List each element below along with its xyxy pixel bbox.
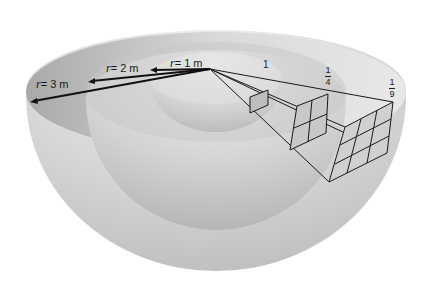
hemisphere-illustration — [0, 0, 428, 283]
radius-label-2m: r= 2 m — [106, 62, 139, 74]
intensity-label-1: 1 — [263, 60, 269, 70]
intensity-label-ninth: 1 9 — [389, 78, 395, 99]
radius-label-1m: r= 1 m — [170, 57, 203, 69]
intensity-label-quarter: 1 4 — [325, 66, 331, 87]
inverse-square-diagram: r= 1 m r= 2 m r= 3 m 1 1 4 1 9 — [0, 0, 428, 283]
radius-label-3m: r= 3 m — [36, 78, 69, 90]
